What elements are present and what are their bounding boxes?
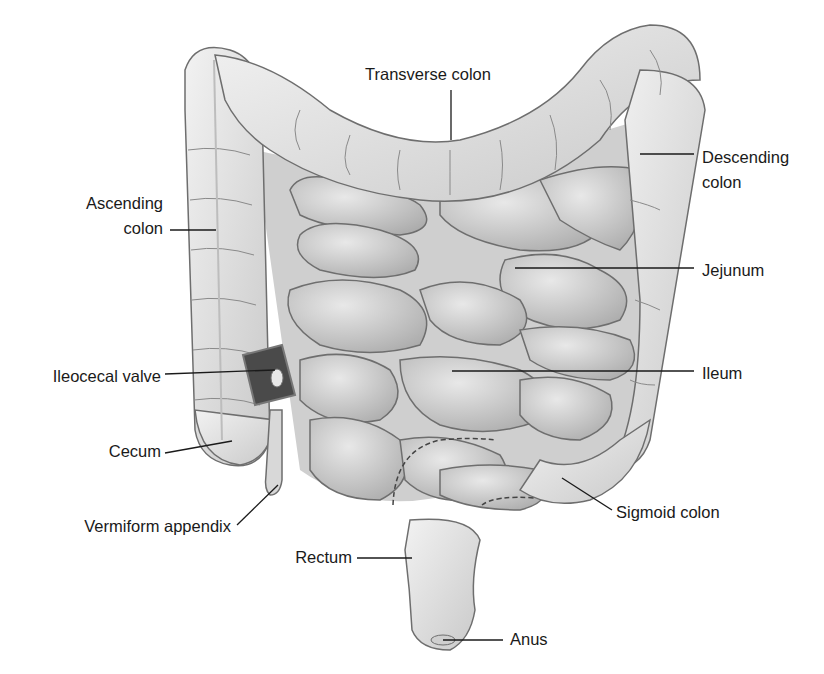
label-sigmoid-colon: Sigmoid colon xyxy=(616,502,720,522)
label-vermiform-appendix: Vermiform appendix xyxy=(30,516,231,536)
label-descending-colon-line1: Descending xyxy=(702,147,789,167)
intestine-illustration xyxy=(0,0,824,674)
label-anus: Anus xyxy=(510,629,548,649)
rectum xyxy=(405,519,480,650)
cecum xyxy=(195,410,275,465)
label-jejunum: Jejunum xyxy=(702,260,764,280)
label-transverse-colon: Transverse colon xyxy=(365,64,491,84)
label-ascending-colon-line1: Ascending xyxy=(66,193,163,213)
label-ascending-colon-line2: colon xyxy=(66,218,163,238)
label-rectum: Rectum xyxy=(270,547,352,567)
label-cecum: Cecum xyxy=(90,441,161,461)
label-ileum: Ileum xyxy=(702,363,742,383)
label-descending-colon-line2: colon xyxy=(702,172,741,192)
label-ileocecal-valve: Ileocecal valve xyxy=(20,366,161,386)
